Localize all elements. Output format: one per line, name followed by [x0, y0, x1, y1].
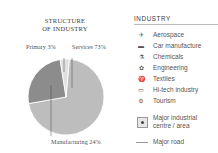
- legend-item-textiles: ♈ Textiles: [134, 74, 175, 83]
- flask-icon: ⚗: [134, 53, 148, 60]
- legend-label: Chemicals: [153, 53, 183, 60]
- computer-icon: ▭: [134, 86, 148, 93]
- legend-item-engineering: ✿ Engineering: [134, 63, 188, 72]
- legend-divider: [134, 24, 218, 25]
- road-line-icon: [136, 142, 148, 143]
- legend-item-hi-tech: ▭ Hi-tech industry: [134, 85, 198, 94]
- legend-item-aerospace: ✈ Aerospace: [134, 30, 184, 39]
- label-services: Services 73%: [72, 43, 106, 50]
- major-centre-swatch: [137, 117, 148, 128]
- legend-item-tourism: Φ Tourism: [134, 96, 176, 105]
- legend-label: Tourism: [153, 97, 176, 104]
- legend-label: Hi-tech industry: [153, 86, 198, 93]
- aircraft-icon: ✈: [134, 31, 148, 38]
- chart-title-line1: STRUCTURE: [30, 17, 100, 25]
- legend-title: INDUSTRY: [134, 15, 171, 22]
- legend-label: Car manufacture: [153, 42, 201, 49]
- legend-label: Major industrial: [153, 114, 197, 122]
- legend-item-car-manufacture: ▬ Car manufacture: [134, 41, 201, 50]
- legend-label: Textiles: [153, 75, 175, 82]
- industry-pie-chart: [27, 58, 105, 136]
- car-icon: ▬: [134, 43, 148, 49]
- tourism-icon: Φ: [134, 98, 148, 104]
- legend-label: centre / area: [153, 122, 197, 130]
- label-primary: Primary 3%: [26, 43, 56, 50]
- chart-title: STRUCTURE OF INDUSTRY: [30, 17, 100, 33]
- legend-major-road: Major road: [153, 138, 184, 145]
- legend-label: Aerospace: [153, 31, 184, 38]
- gear-icon: ✿: [134, 64, 148, 71]
- dot-icon: [141, 121, 144, 124]
- chart-title-line2: OF INDUSTRY: [30, 25, 100, 33]
- legend-label: Engineering: [153, 64, 188, 71]
- pie-slice-manufacturing: [28, 60, 66, 104]
- label-manufacturing: Manufacturing 24%: [51, 138, 101, 145]
- shirt-icon: ♈: [134, 75, 148, 82]
- legend-item-chemicals: ⚗ Chemicals: [134, 52, 183, 61]
- legend-major-centre: Major industrial centre / area: [153, 114, 197, 129]
